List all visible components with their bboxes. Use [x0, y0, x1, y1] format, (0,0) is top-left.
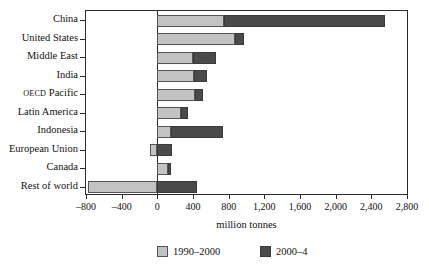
x-axis-tick-label: 0	[155, 201, 160, 212]
bar-segment	[195, 89, 203, 101]
bar-row	[86, 49, 407, 68]
bar-row	[86, 12, 407, 31]
bar-chart: ChinaUnited StatesMiddle EastIndiaOECD P…	[0, 0, 429, 273]
category-label: OECD Pacific	[0, 87, 78, 99]
x-axis-tick	[371, 194, 372, 199]
bar-row	[86, 123, 407, 142]
bar-row	[86, 67, 407, 86]
x-axis-title: million tonnes	[85, 219, 408, 230]
category-label: Rest of world	[0, 180, 78, 191]
bar-segment	[171, 126, 224, 138]
x-axis-tick	[229, 194, 230, 199]
bar-segment	[157, 33, 235, 45]
legend-item[interactable]: 2000–4	[260, 246, 308, 257]
x-axis-tick	[264, 194, 265, 199]
category-label: Indonesia	[0, 124, 78, 135]
category-label: Middle East	[0, 50, 78, 61]
bar-segment	[157, 52, 193, 64]
bar-segment	[193, 52, 216, 64]
legend-swatch-icon	[157, 246, 168, 257]
legend-label: 1990–2000	[173, 246, 220, 257]
x-axis-tick	[86, 194, 87, 199]
category-label: European Union	[0, 143, 78, 154]
bar-segment	[224, 15, 385, 27]
x-axis-tick	[336, 194, 337, 199]
bar-segment	[88, 181, 158, 193]
bar-segment	[157, 70, 194, 82]
bar-row	[86, 178, 407, 197]
x-axis-tick-label: 400	[186, 201, 201, 212]
category-label: China	[0, 13, 78, 24]
bar-row	[86, 160, 407, 179]
bar-row	[86, 104, 407, 123]
x-axis-tick	[407, 194, 408, 199]
bar-segment	[157, 144, 172, 156]
x-axis-tick	[157, 194, 158, 199]
bar-segment	[235, 33, 244, 45]
x-axis-tick-label: 1,600	[289, 201, 312, 212]
bar-row	[86, 86, 407, 105]
x-axis-tick-label: 1,200	[253, 201, 276, 212]
bar-row	[86, 30, 407, 49]
x-axis-tick-label: 800	[221, 201, 236, 212]
legend-label: 2000–4	[276, 246, 308, 257]
bar-segment	[181, 107, 188, 119]
legend-swatch-icon	[260, 246, 271, 257]
bar-segment	[168, 163, 171, 175]
category-label: Canada	[0, 161, 78, 172]
category-label: India	[0, 69, 78, 80]
x-axis-tick-label: 2,800	[396, 201, 419, 212]
bar-segment	[194, 70, 207, 82]
x-axis-tick	[122, 194, 123, 199]
x-axis-tick-label: –800	[76, 201, 96, 212]
bar-segment	[157, 181, 197, 193]
bar-segment	[157, 163, 168, 175]
x-axis-tick-label: –400	[112, 201, 132, 212]
category-label: Latin America	[0, 106, 78, 117]
plot-area	[85, 10, 408, 195]
category-axis-labels: ChinaUnited StatesMiddle EastIndiaOECD P…	[0, 10, 82, 195]
bar-segment	[157, 107, 181, 119]
bar-segment	[157, 15, 224, 27]
chart-legend: 1990–20002000–4	[85, 246, 408, 262]
x-axis-tick	[300, 194, 301, 199]
bar-segment	[157, 126, 170, 138]
bar-row	[86, 141, 407, 160]
x-axis-tick-label: 2,000	[324, 201, 347, 212]
x-axis-tick	[193, 194, 194, 199]
bar-segment	[157, 89, 194, 101]
x-axis-tick-label: 2,400	[360, 201, 383, 212]
legend-item[interactable]: 1990–2000	[157, 246, 220, 257]
category-label: United States	[0, 32, 78, 43]
bar-segment	[150, 144, 157, 156]
